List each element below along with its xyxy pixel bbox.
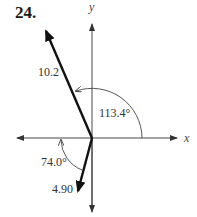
angle-label-113: 113.4° [99,106,131,120]
angle-label-74: 74.0° [41,155,67,169]
y-axis-label: y [88,0,95,14]
vector-a-magnitude: 10.2 [38,65,59,79]
vector-b-arrow [78,138,92,191]
vector-diagram: 24. y x 113.4° 74.0° 10.2 4.90 [0,0,197,217]
x-axis-label: x [183,131,190,145]
vector-a-arrow [46,31,92,138]
problem-number: 24. [15,3,36,22]
vector-b-magnitude: 4.90 [52,182,73,196]
